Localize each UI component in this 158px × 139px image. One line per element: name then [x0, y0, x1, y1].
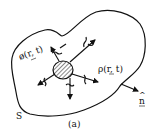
diagram-canvas: ø(r, t) ρ(r, t) ^ n S (a) — [0, 0, 158, 139]
normal-label: n — [139, 96, 145, 106]
potential-label-underline — [31, 58, 36, 60]
normal-arrow — [121, 84, 138, 91]
potential-label: ø(r, t) — [17, 44, 44, 62]
figure-caption: (a) — [68, 119, 80, 129]
surface-boundary — [11, 10, 145, 116]
surface-label: S — [16, 111, 22, 121]
source-region — [53, 61, 73, 79]
density-label: ρ(r, t) — [98, 64, 123, 74]
